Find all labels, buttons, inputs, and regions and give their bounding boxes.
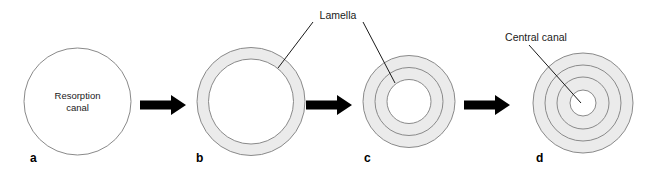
callout-lamella-leader-to-b <box>278 22 313 68</box>
panel-d: d <box>533 53 633 165</box>
panel-d-central-canal-hole <box>570 90 596 116</box>
arrow-c-d-shape <box>464 95 510 115</box>
panel-c-canal-hole <box>387 80 431 124</box>
arrow-a-b-shape <box>140 95 186 115</box>
arrow-b-c-shape <box>306 95 352 115</box>
arrow-a-b <box>140 95 186 115</box>
panel-c-letter: c <box>364 151 371 165</box>
figure-canvas: Resorption canal a b c <box>0 0 661 174</box>
panel-a-label-line2: canal <box>66 102 89 113</box>
callout-central-canal-label: Central canal <box>505 31 567 43</box>
panel-a-label-line1: Resorption <box>55 90 101 101</box>
panel-d-letter: d <box>536 151 543 165</box>
panel-b-letter: b <box>196 151 203 165</box>
osteon-formation-figure: Resorption canal a b c <box>0 0 661 174</box>
arrow-c-d <box>464 95 510 115</box>
panel-b-canal-hole <box>209 59 294 144</box>
arrow-b-c <box>306 95 352 115</box>
callout-lamella-label: Lamella <box>320 9 357 21</box>
panel-a-letter: a <box>30 151 37 165</box>
panel-a: Resorption canal a <box>24 48 131 165</box>
panel-c: c <box>363 56 455 166</box>
panel-b: b <box>196 48 305 166</box>
